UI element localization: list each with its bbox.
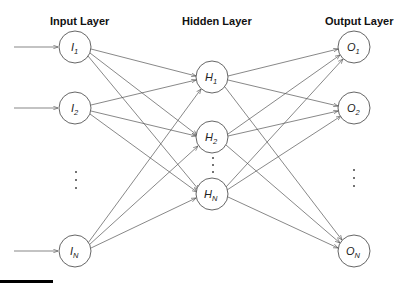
input-layer-title: Input Layer xyxy=(50,15,110,27)
output-node-on: ON xyxy=(338,235,370,267)
hidden-layer-title: Hidden Layer xyxy=(182,15,252,27)
output-layer-title: Output Layer xyxy=(325,15,394,27)
external-input-arrows xyxy=(14,47,58,251)
hidden-output-edges xyxy=(225,49,343,248)
output-node-o2: O2 xyxy=(338,92,370,124)
hidden-node-h2: H2 xyxy=(196,121,228,153)
hidden-ellipsis-dots xyxy=(212,157,214,173)
hidden-node-h1: H1 xyxy=(196,61,228,93)
input-node-i2: I2 xyxy=(59,92,91,124)
input-hidden-edges xyxy=(88,49,201,248)
output-node-o1: O1 xyxy=(338,31,370,63)
input-ellipsis-dots xyxy=(75,171,77,189)
input-node-in: IN xyxy=(59,235,91,267)
neural-network-diagram: Input Layer Hidden Layer Output Layer I1 xyxy=(0,0,396,283)
hidden-node-hn: HN xyxy=(196,178,228,210)
output-ellipsis-dots xyxy=(353,169,355,187)
input-node-i1: I1 xyxy=(59,31,91,63)
